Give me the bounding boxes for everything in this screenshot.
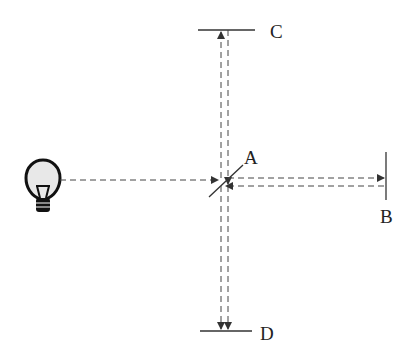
interferometer-diagram: A C B D [0, 0, 416, 364]
light-bulb-icon [26, 160, 60, 212]
label-D: D [260, 323, 274, 344]
beam-splitter-A [209, 165, 243, 197]
label-B: B [380, 206, 393, 227]
label-C: C [270, 21, 283, 42]
label-A: A [244, 147, 258, 168]
